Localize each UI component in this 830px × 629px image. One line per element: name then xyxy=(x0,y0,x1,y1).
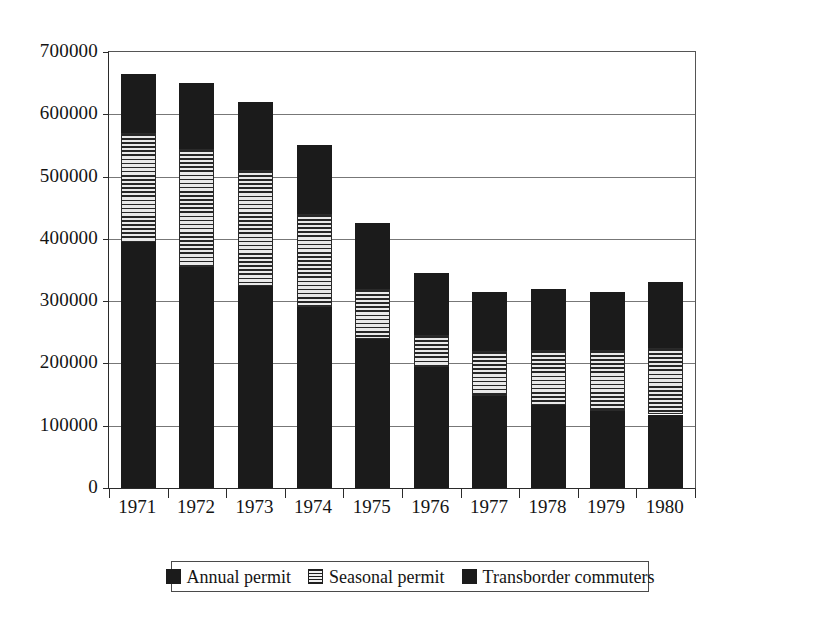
legend-item-transborder-commuters: Transborder commuters xyxy=(462,568,655,586)
bar-segment-seasonal-permit-1977 xyxy=(472,351,507,396)
bar-segment-transborder-commuters-1980 xyxy=(648,415,683,488)
legend-label: Annual permit xyxy=(187,568,291,586)
bar-1979 xyxy=(590,52,625,488)
bar-segment-annual-permit-1972 xyxy=(179,83,214,148)
y-tick-mark xyxy=(103,114,109,115)
y-tick-mark xyxy=(103,239,109,240)
bar-segment-transborder-commuters-1973 xyxy=(238,286,273,488)
bar-segment-transborder-commuters-1976 xyxy=(414,367,449,488)
y-axis-tick-label: 300000 xyxy=(0,290,98,309)
y-tick-mark xyxy=(103,52,109,53)
legend-label: Transborder commuters xyxy=(483,568,655,586)
y-axis-tick-label: 500000 xyxy=(0,166,98,185)
bar-1976 xyxy=(414,52,449,488)
y-tick-mark xyxy=(103,301,109,302)
legend-item-seasonal-permit: Seasonal permit xyxy=(308,568,444,586)
solid-dark-swatch-icon xyxy=(166,569,181,584)
legend-item-annual-permit: Annual permit xyxy=(166,568,291,586)
y-axis-tick-label: 0 xyxy=(0,477,98,496)
bar-segment-annual-permit-1971 xyxy=(121,74,156,133)
bar-segment-annual-permit-1977 xyxy=(472,292,507,351)
bar-segment-seasonal-permit-1971 xyxy=(121,133,156,242)
x-axis-tick-label-1980: 1980 xyxy=(630,497,700,517)
bar-1972 xyxy=(179,52,214,488)
bar-segment-annual-permit-1979 xyxy=(590,292,625,350)
bar-segment-transborder-commuters-1979 xyxy=(590,411,625,488)
solid-dark-swatch-icon xyxy=(462,569,477,584)
y-axis-tick-label: 700000 xyxy=(0,41,98,60)
bar-1974 xyxy=(297,52,332,488)
y-axis-tick-label: 400000 xyxy=(0,228,98,247)
plot-area xyxy=(108,51,696,489)
bar-1973 xyxy=(238,52,273,488)
bar-segment-annual-permit-1978 xyxy=(531,289,566,350)
bar-segment-seasonal-permit-1972 xyxy=(179,149,214,267)
y-tick-mark xyxy=(103,426,109,427)
bar-1980 xyxy=(648,52,683,488)
legend-label: Seasonal permit xyxy=(329,568,444,586)
bar-segment-seasonal-permit-1974 xyxy=(297,214,332,307)
bar-segment-seasonal-permit-1980 xyxy=(648,348,683,415)
bar-1978 xyxy=(531,52,566,488)
bar-segment-transborder-commuters-1971 xyxy=(121,242,156,488)
bar-1977 xyxy=(472,52,507,488)
bar-segment-seasonal-permit-1978 xyxy=(531,350,566,405)
bar-1971 xyxy=(121,52,156,488)
y-axis-tick-label: 100000 xyxy=(0,415,98,434)
bar-segment-transborder-commuters-1977 xyxy=(472,396,507,488)
y-tick-mark xyxy=(103,177,109,178)
striped-swatch-icon xyxy=(308,569,323,584)
bar-segment-seasonal-permit-1976 xyxy=(414,335,449,366)
bar-segment-annual-permit-1975 xyxy=(355,223,390,288)
bar-segment-transborder-commuters-1978 xyxy=(531,405,566,488)
y-axis-tick-label: 200000 xyxy=(0,352,98,371)
bar-segment-seasonal-permit-1973 xyxy=(238,170,273,285)
stacked-bar-chart: 0100000200000300000400000500000600000700… xyxy=(0,0,830,629)
bar-segment-annual-permit-1973 xyxy=(238,102,273,171)
bar-segment-transborder-commuters-1974 xyxy=(297,307,332,488)
bar-segment-transborder-commuters-1972 xyxy=(179,267,214,488)
y-axis-tick-label: 600000 xyxy=(0,103,98,122)
bar-segment-annual-permit-1980 xyxy=(648,282,683,347)
chart-legend: Annual permitSeasonal permitTransborder … xyxy=(171,561,649,592)
bar-segment-seasonal-permit-1975 xyxy=(355,289,390,339)
y-tick-mark xyxy=(103,363,109,364)
bar-segment-annual-permit-1974 xyxy=(297,145,332,214)
bar-1975 xyxy=(355,52,390,488)
bar-segment-annual-permit-1976 xyxy=(414,273,449,335)
bar-segment-seasonal-permit-1979 xyxy=(590,350,625,412)
bar-segment-transborder-commuters-1975 xyxy=(355,339,390,488)
